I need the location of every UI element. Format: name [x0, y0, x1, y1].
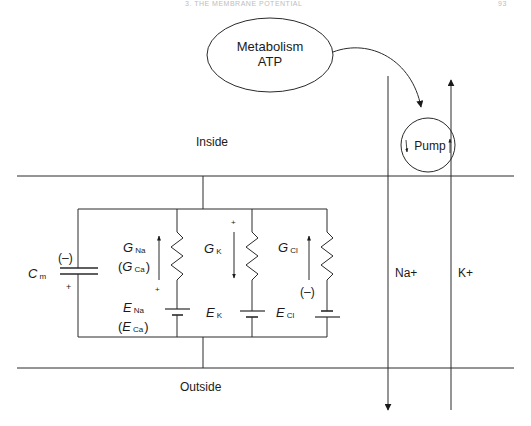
sodium-potassium-pump: Pump — [401, 118, 455, 172]
gcl-label: GCl — [278, 240, 298, 255]
cl-branch — [315, 209, 340, 337]
pump-down-arrow-icon — [406, 140, 407, 152]
running-title: 3. THE MEMBRANE POTENTIAL — [185, 0, 302, 7]
gca-label: (GCa) — [118, 259, 150, 274]
ena-label: ENa — [123, 300, 144, 315]
page-number: 93 — [498, 0, 507, 7]
metabolism-label: Metabolism — [237, 39, 303, 54]
k-branch — [240, 209, 265, 337]
gk-label: GK — [204, 241, 222, 256]
gna-label: GNa — [123, 240, 146, 255]
inside-label: Inside — [196, 135, 228, 149]
ecl-label: ECl — [276, 305, 294, 320]
eca-label: (ECa) — [118, 319, 149, 334]
k-sign: + — [231, 218, 236, 227]
na-ion-label: Na+ — [395, 266, 417, 280]
metabolism-atp-ellipse: Metabolism ATP — [207, 18, 333, 92]
membrane-equivalent-circuit-diagram: 3. THE MEMBRANE POTENTIAL 93 Metabolism … — [0, 0, 531, 426]
ek-label: EK — [206, 305, 223, 320]
resistor-gna-icon — [171, 232, 183, 280]
resistor-gk-icon — [246, 232, 258, 280]
atp-label: ATP — [258, 54, 282, 69]
resistor-gcl-icon — [321, 232, 333, 280]
cm-top-sign: (–) — [58, 251, 73, 265]
pump-label: Pump — [414, 139, 446, 153]
cl-sign: (–) — [300, 285, 315, 299]
capacitor-cm-icon — [60, 209, 98, 337]
outside-label: Outside — [180, 380, 222, 394]
equivalent-circuit — [60, 176, 340, 368]
cm-bottom-sign: + — [66, 282, 71, 292]
cm-label: Cm — [28, 266, 46, 281]
na-sign: + — [155, 285, 160, 294]
atp-to-pump-arrow — [333, 48, 421, 107]
na-branch — [165, 209, 190, 337]
k-ion-label: K+ — [458, 266, 473, 280]
